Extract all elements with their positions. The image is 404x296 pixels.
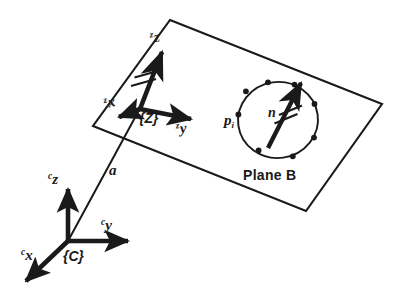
camera-frame-label: {C} bbox=[63, 249, 84, 263]
camera-frame-z-axis-label: cz bbox=[48, 172, 58, 187]
plane-b-label: Plane B bbox=[243, 168, 296, 182]
feature-point-label: pi bbox=[224, 113, 234, 130]
ray-a-label: a bbox=[109, 163, 117, 178]
feature-point-letter: p bbox=[224, 112, 232, 128]
feature-point bbox=[265, 79, 271, 85]
feature-point bbox=[243, 88, 249, 94]
camera-frame-y-axis-letter: y bbox=[105, 217, 112, 233]
camera-frame-x-axis-label: cx bbox=[21, 248, 33, 263]
feature-point bbox=[236, 112, 242, 118]
feature-point bbox=[256, 148, 262, 154]
plane-frame-z-axis-label: zz bbox=[149, 29, 161, 45]
plane-frame-label: {Z} bbox=[139, 111, 158, 125]
plane-frame-y-axis-label: zy bbox=[175, 121, 187, 137]
feature-point bbox=[311, 135, 317, 141]
feature-point bbox=[290, 153, 296, 159]
diagram-canvas: zz zx zy {Z} a cz cy cx {C} n pi Plane B bbox=[0, 0, 404, 296]
camera-frame-y-axis-label: cy bbox=[101, 218, 112, 233]
diagram-svg bbox=[0, 0, 404, 296]
camera-frame-axes bbox=[26, 189, 128, 281]
normal-vector-label: n bbox=[268, 106, 276, 120]
camera-frame-z-axis-letter: z bbox=[52, 171, 58, 187]
feature-point-subscript: i bbox=[232, 120, 235, 130]
feature-circle-group bbox=[233, 77, 323, 163]
plane-frame-axes bbox=[119, 52, 191, 119]
feature-point bbox=[312, 101, 318, 107]
feature-point bbox=[292, 82, 298, 88]
plane-frame-y-axis-letter: y bbox=[179, 120, 187, 137]
camera-frame-x-axis-letter: x bbox=[25, 247, 33, 263]
